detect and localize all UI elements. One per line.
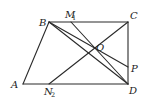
segment-AB bbox=[23, 22, 49, 84]
label-O: O bbox=[96, 42, 104, 53]
label-A: A bbox=[10, 79, 18, 90]
segment-M1D bbox=[71, 22, 128, 84]
label-D: D bbox=[128, 85, 137, 96]
label-M1-sub: 1 bbox=[72, 14, 76, 22]
segment-BP bbox=[49, 22, 128, 67]
geometry-diagram: A B C D M 1 N 2 O P bbox=[0, 0, 147, 102]
label-N2-sub: 2 bbox=[51, 91, 55, 99]
label-P: P bbox=[130, 63, 138, 74]
label-C: C bbox=[130, 10, 138, 21]
label-B: B bbox=[38, 17, 46, 28]
segments bbox=[23, 22, 128, 84]
